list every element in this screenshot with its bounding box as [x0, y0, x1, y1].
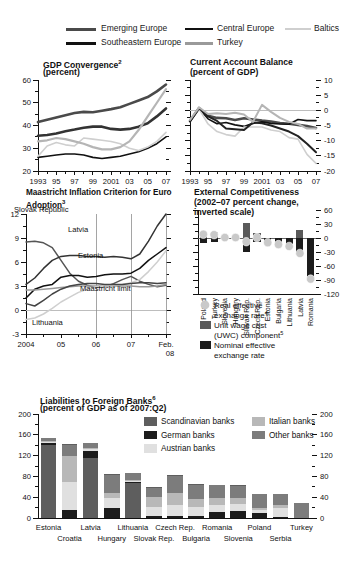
x-tick-label: 03	[125, 177, 133, 186]
bar-uwc	[296, 230, 303, 238]
x-tick-label: Feb.	[158, 340, 173, 349]
bar-segment	[146, 497, 162, 507]
legend-swatch-other	[252, 431, 265, 440]
bar-segment	[209, 512, 225, 518]
bar-segment	[230, 504, 246, 511]
bar-segment	[125, 481, 141, 482]
annotation-label: Latvia	[68, 225, 89, 234]
x-tick-label: 2004	[18, 340, 35, 349]
marker-reer	[274, 240, 282, 248]
legend-swatch-scandinavian	[144, 417, 157, 426]
bar-segment	[83, 443, 99, 449]
y-tick-label: 40	[23, 493, 31, 502]
plot-gdp-convergence: 203040506019939597992001030507	[0, 56, 175, 184]
legend-label-reer-1: Real effective	[214, 301, 263, 310]
marker-reer	[306, 275, 314, 283]
bar-segment	[273, 505, 289, 508]
y-tick-label: 60	[324, 206, 332, 215]
y-tick-label: -3	[12, 330, 19, 339]
bar-segment	[252, 508, 268, 510]
y-tick-label: -30	[324, 248, 335, 257]
x-tick-label: 99	[89, 177, 97, 186]
y-tick-label: 80	[23, 472, 31, 481]
bar-segment	[62, 482, 78, 510]
legend-label-neer-2: exchange rate	[214, 351, 265, 360]
bar-segment	[273, 517, 289, 518]
bar-segment	[104, 475, 120, 493]
bar-segment	[125, 473, 141, 480]
bar-uwc	[243, 223, 250, 238]
y-tick-label: 0	[27, 514, 31, 523]
y-tick-label: 60	[23, 76, 31, 85]
bar-segment	[167, 505, 183, 516]
legend-line-baltics	[285, 28, 311, 30]
y-tick-label-right: 0	[320, 514, 324, 523]
legend-label-scandinavian: Scandinavian banks	[161, 417, 234, 426]
series-2	[38, 132, 166, 156]
y-tick-label-right: 120	[320, 451, 333, 460]
x-category-label: Romania	[202, 523, 233, 532]
panel-gdp-convergence: GDP Convergence2 (percent) 2030405060199…	[0, 56, 175, 184]
bar-segment	[83, 448, 99, 449]
x-tick-label: 05	[57, 340, 65, 349]
x-category-label: Turkey	[290, 523, 313, 532]
legend-label-other: Other banks	[269, 431, 314, 440]
y-tick-label: 0	[15, 306, 19, 315]
y-tick-label: 30	[324, 220, 332, 229]
bar-segment	[273, 494, 289, 495]
bar-segment	[104, 498, 120, 507]
marker-reer	[253, 233, 261, 241]
y-tick-label: 120	[18, 451, 31, 460]
legend-swatch-neer	[200, 341, 211, 349]
x-tick-label: 2001	[254, 177, 271, 186]
y-tick-label-right: 200	[320, 410, 333, 419]
y-tick-label: 9	[15, 234, 19, 243]
x-tick-label: 97	[222, 177, 230, 186]
bar-segment	[209, 505, 225, 512]
bar-segment	[104, 474, 120, 475]
legend-label-central-europe: Central Europe	[217, 23, 274, 33]
legend-label-turkey: Turkey	[217, 37, 243, 47]
bar-segment	[104, 508, 120, 518]
y-tick-label: -10	[324, 136, 335, 145]
legend-label-uwc-2: (UWC) component5	[214, 330, 283, 340]
annotation-label: Lithuania	[32, 318, 64, 327]
annotation-label: Slovak Republic	[14, 205, 69, 214]
x-tick-label: 1993	[182, 177, 199, 186]
y-tick-label: 200	[18, 410, 31, 419]
x-category-label: Slovak Rep.	[133, 534, 174, 543]
x-category-label: Latvia	[297, 298, 304, 317]
bar-segment	[230, 485, 246, 486]
legend-label-italian: Italian banks	[269, 417, 315, 426]
x-tick-label: 1993	[30, 177, 47, 186]
bar-segment	[273, 494, 289, 505]
x-category-label: Lithuania	[286, 298, 293, 327]
x-tick-label: 99	[240, 177, 248, 186]
legend-swatch-uwc	[200, 321, 211, 329]
x-category-label: Bulgaria	[182, 534, 211, 543]
legend-marker-reer	[201, 301, 210, 310]
bar-segment	[146, 488, 162, 496]
bar-segment	[167, 516, 183, 518]
bar-segment	[146, 516, 162, 518]
marker-reer	[264, 238, 272, 246]
bar-segment	[252, 494, 268, 508]
y-tick-label: -5	[324, 121, 331, 130]
legend-label-emerging-europe: Emerging Europe	[101, 23, 167, 33]
bar-segment	[41, 438, 57, 441]
plot-liabilities-foreign-banks: 0040408080120120160160200200EstoniaCroat…	[0, 390, 351, 562]
bar-segment	[188, 516, 204, 518]
x-tick-label: 2001	[103, 177, 120, 186]
annotation-label: Maastricht limit	[80, 284, 132, 293]
plot-maastricht-inflation: 129630-32004050607Feb.08Slovak RepublicL…	[0, 186, 175, 356]
x-tick-label: 07	[162, 177, 170, 186]
bar-segment	[252, 494, 268, 495]
x-tick-label: 05	[294, 177, 302, 186]
y-tick-label-right: 80	[320, 472, 328, 481]
y-tick-label: -20	[324, 167, 335, 176]
y-tick-label: 3	[15, 282, 19, 291]
bar-segment	[252, 513, 268, 518]
x-tick-label: 03	[276, 177, 284, 186]
y-tick-label: -60	[324, 262, 335, 271]
y-tick-label: 0	[324, 106, 328, 115]
